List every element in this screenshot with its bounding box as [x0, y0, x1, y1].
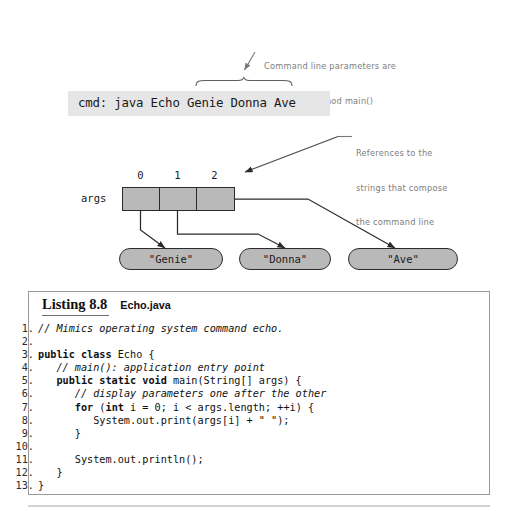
command-line-text: cmd: java Echo Genie Donna Ave	[78, 95, 296, 110]
code-line-text: }	[38, 466, 63, 479]
string-value-2: "Ave"	[348, 248, 458, 270]
top-annotation-line-1: Command line parameters are	[264, 61, 396, 73]
right-annotation-line-1: References to the	[356, 148, 448, 160]
code-line-number: 9.	[8, 427, 38, 440]
code-line-text: }	[38, 479, 44, 492]
code-line: 5. public static void main(String[] args…	[8, 374, 488, 387]
array-index-2: 2	[196, 169, 233, 181]
code-line-number: 10.	[8, 440, 38, 453]
code-line-text: public class Echo {	[38, 348, 155, 361]
code-line-text: // Mimics operating system command echo.	[38, 322, 283, 335]
listing-header: Listing 8.8 Echo.java	[42, 296, 171, 316]
code-line-text: // main(): application entry point	[38, 361, 265, 374]
code-line-number: 3.	[8, 348, 38, 361]
code-line: 2.	[8, 335, 488, 348]
code-line: 10.	[8, 440, 488, 453]
code-line-text: for (int i = 0; i < args.length; ++i) {	[38, 401, 314, 414]
code-line-number: 12.	[8, 466, 38, 479]
listing-filename: Echo.java	[120, 299, 170, 311]
array-index-0: 0	[122, 169, 159, 181]
right-annotation-line-3: the command line	[356, 217, 448, 229]
code-listing: 1.// Mimics operating system command ech…	[8, 322, 488, 492]
code-line: 12. }	[8, 466, 488, 479]
code-line-number: 11.	[8, 453, 38, 466]
array-cells	[122, 187, 235, 211]
array-cell-2	[197, 188, 234, 210]
right-annotation-arrow	[245, 137, 352, 173]
code-line-number: 2.	[8, 335, 38, 348]
string-value-1: "Donna"	[239, 248, 331, 270]
array-cell-0	[123, 188, 160, 210]
string-value-0: "Genie"	[119, 248, 223, 270]
array-cell-1	[160, 188, 197, 210]
code-line-text: }	[38, 427, 81, 440]
code-line: 6. // display parameters one after the o…	[8, 387, 488, 400]
code-line: 1.// Mimics operating system command ech…	[8, 322, 488, 335]
code-line-number: 13.	[8, 479, 38, 492]
code-line: 9. }	[8, 427, 488, 440]
right-annotation-line-2: strings that compose	[356, 183, 448, 195]
code-line-number: 7.	[8, 401, 38, 414]
array-variable-label: args	[81, 192, 106, 204]
code-line: 11. System.out.println();	[8, 453, 488, 466]
code-line: 8. System.out.print(args[i] + " ");	[8, 414, 488, 427]
right-annotation: References to the strings that compose t…	[356, 125, 448, 240]
code-line-number: 8.	[8, 414, 38, 427]
code-line: 4. // main(): application entry point	[8, 361, 488, 374]
code-line: 3.public class Echo {	[8, 348, 488, 361]
code-line-text: System.out.print(args[i] + " ");	[38, 414, 289, 427]
code-line: 13.}	[8, 479, 488, 492]
array-index-1: 1	[159, 169, 196, 181]
top-annotation-arrow	[245, 52, 256, 70]
code-line-text: public static void main(String[] args) {	[38, 374, 302, 387]
listing-title: Listing 8.8	[42, 296, 109, 316]
code-line-number: 4.	[8, 361, 38, 374]
code-line-number: 5.	[8, 374, 38, 387]
code-line: 7. for (int i = 0; i < args.length; ++i)…	[8, 401, 488, 414]
code-line-number: 1.	[8, 322, 38, 335]
code-line-text: System.out.println();	[38, 453, 204, 466]
bottom-divider	[28, 505, 490, 507]
code-line-number: 6.	[8, 387, 38, 400]
code-line-text: // display parameters one after the othe…	[38, 387, 326, 400]
